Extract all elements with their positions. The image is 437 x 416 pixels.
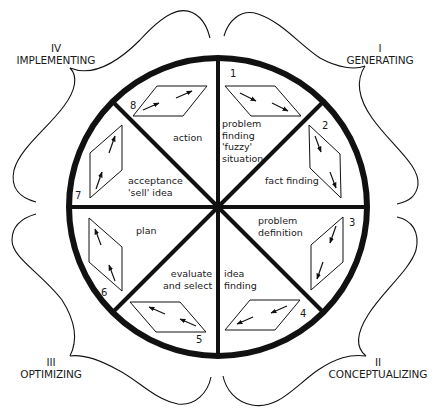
creative-process-diagram: IV IMPLEMENTING I GENERATING III OPTIMIZ… (0, 0, 437, 416)
quadrant-numeral: IV (16, 42, 96, 54)
frame-curve-bottom-left (70, 356, 211, 405)
segment-number-7: 7 (75, 190, 81, 202)
quadrant-numeral: III (16, 356, 86, 368)
quadrant-numeral: I (340, 42, 420, 54)
segment-label-problem-definition: problem definition (258, 215, 303, 238)
segment-number-4: 4 (300, 308, 306, 320)
quadrant-name: GENERATING (340, 54, 420, 66)
quadrant-name: OPTIMIZING (16, 368, 86, 380)
frame-curve-right-bottom (359, 217, 417, 356)
quadrant-name: CONCEPTUALIZING (326, 368, 430, 380)
segment-label-fact-finding: fact finding (265, 175, 319, 187)
segment-label-acceptance: acceptance 'sell' idea (128, 175, 183, 198)
wheel (69, 58, 367, 356)
segment-number-5: 5 (196, 334, 202, 346)
quadrant-label-iii: III OPTIMIZING (16, 356, 86, 380)
segment-label-problem-finding: problem finding 'fuzzy' situation (222, 118, 263, 164)
segment-number-6: 6 (101, 287, 107, 299)
quadrant-numeral: II (326, 356, 430, 368)
segment-label-idea-finding: idea finding (224, 268, 257, 291)
segment-number-8: 8 (130, 100, 136, 112)
quadrant-label-i: I GENERATING (340, 42, 420, 66)
frame-curve-left-top (13, 68, 75, 202)
quadrant-label-iv: IV IMPLEMENTING (16, 42, 96, 66)
segment-label-plan: plan (136, 225, 157, 237)
segment-label-action: action (173, 132, 202, 144)
segment-number-3: 3 (349, 217, 355, 229)
segment-number-2: 2 (322, 120, 328, 132)
segment-number-1: 1 (230, 68, 236, 80)
quadrant-label-ii: II CONCEPTUALIZING (326, 356, 430, 380)
frame-curve-left-bottom (12, 214, 75, 356)
frame-curve-right-top (360, 66, 419, 204)
quadrant-name: IMPLEMENTING (16, 54, 96, 66)
segment-label-evaluate-select: evaluate and select (163, 268, 212, 291)
